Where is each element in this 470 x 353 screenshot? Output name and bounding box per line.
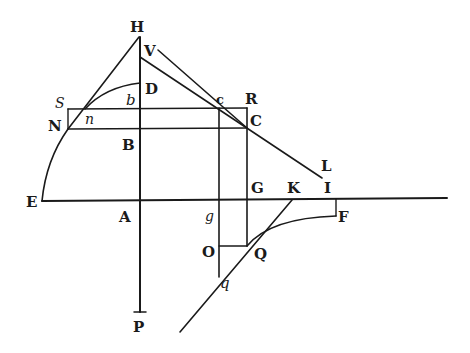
curve-QF [247,216,336,246]
label-B: B [122,136,135,154]
label-P: P [133,318,144,336]
label-G: G [251,179,264,197]
label-A: A [118,208,131,226]
label-b: b [126,91,136,109]
geometry-diagram: H V D b c R C S N n B L E A g G K I F O … [0,0,470,353]
label-H: H [130,18,144,36]
line-Sc [68,108,247,109]
label-N: N [48,117,62,135]
label-F: F [338,208,349,226]
line-tangent-cL [158,50,247,128]
label-D: D [145,80,158,98]
label-g: g [205,208,214,224]
line-HN [68,37,139,129]
line-NC [68,128,247,129]
label-c: c [216,92,224,107]
curve-NE [42,129,68,201]
label-V: V [143,42,156,60]
label-I: I [324,179,331,197]
label-Q: Q [254,245,267,263]
label-R: R [245,90,258,108]
line-Kq [180,200,292,332]
label-O: O [202,243,215,261]
label-S: S [55,95,65,111]
label-E: E [26,193,37,211]
label-L: L [321,157,332,175]
label-n: n [85,111,94,127]
label-q: q [220,274,230,292]
label-K: K [287,179,301,197]
line-VI [140,57,322,178]
label-C: C [250,112,262,130]
baseline-axis [42,198,447,201]
